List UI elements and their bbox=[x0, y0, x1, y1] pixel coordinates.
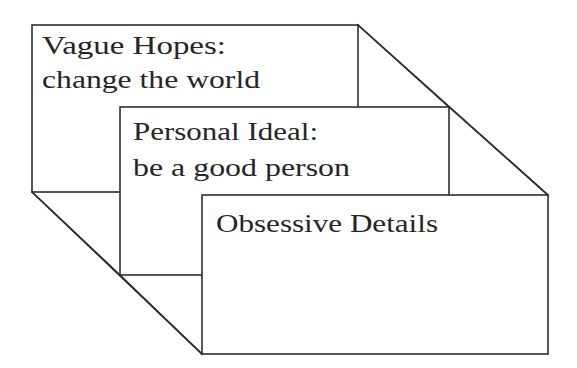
bottom-left-diagonal-seg2 bbox=[120, 275, 202, 354]
box-personal-ideal-title: Personal Ideal: bbox=[133, 118, 318, 145]
box-obsessive-details: Obsessive Details bbox=[202, 195, 548, 354]
top-right-diagonal-seg2 bbox=[449, 107, 548, 195]
box-vague-hopes-subtitle: change the world bbox=[42, 66, 261, 93]
box-obsessive-details-title: Obsessive Details bbox=[216, 210, 438, 237]
bottom-left-diagonal-seg1 bbox=[32, 192, 120, 275]
top-right-diagonal-seg1 bbox=[358, 25, 449, 107]
box-vague-hopes-title: Vague Hopes: bbox=[42, 32, 226, 59]
levels-diagram: Vague Hopes: change the world Personal I… bbox=[0, 0, 577, 368]
box-personal-ideal-subtitle: be a good person bbox=[133, 154, 351, 181]
